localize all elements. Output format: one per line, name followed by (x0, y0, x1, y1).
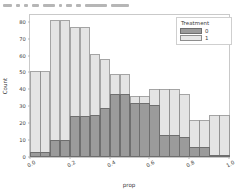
x-axis-label: prop (123, 182, 136, 188)
bar-treatment-0 (120, 94, 131, 157)
bar-treatment-0 (159, 135, 170, 157)
y-axis-tick-label: 50 (19, 69, 26, 75)
bar-treatment-0 (199, 147, 210, 157)
bar-treatment-1 (60, 20, 71, 157)
bar-treatment-0 (70, 116, 81, 157)
bar-treatment-0 (100, 108, 111, 157)
bar-treatment-0 (40, 152, 51, 157)
bar-treatment-0 (169, 135, 180, 157)
y-axis-tick-mark (28, 89, 30, 90)
legend-item-0[interactable]: 0 (180, 28, 228, 34)
x-axis-tick-label: 0.0 (26, 159, 36, 168)
bar-treatment-0 (189, 147, 200, 157)
bar-treatment-0 (149, 105, 160, 157)
x-axis-tick-label: 0.8 (185, 159, 195, 168)
x-axis-tick-mark (149, 157, 150, 159)
y-axis-tick-label: 60 (19, 53, 26, 59)
x-axis-tick-label: 1.0 (225, 159, 235, 168)
bar-treatment-0 (139, 103, 150, 157)
x-axis-tick-mark (189, 157, 190, 159)
x-axis-tick-mark (30, 157, 31, 159)
x-axis-tick-mark (109, 157, 110, 159)
y-axis-tick-label: 30 (19, 103, 26, 109)
bar-treatment-1 (50, 20, 61, 157)
legend: Treatment 0 1 (176, 17, 232, 45)
y-axis-tick-mark (28, 123, 30, 124)
y-axis-tick-mark (28, 140, 30, 141)
x-axis-tick-label: 0.6 (146, 159, 156, 168)
legend-label-0: 0 (205, 28, 208, 34)
x-axis-tick-mark (229, 157, 230, 159)
bar-treatment-0 (110, 94, 121, 157)
y-axis-tick-mark (28, 38, 30, 39)
y-axis-tick-label: 80 (19, 19, 26, 25)
y-axis-tick-label: 20 (19, 120, 26, 126)
legend-swatch-1 (180, 35, 202, 41)
y-axis-tick-mark (28, 106, 30, 107)
bar-treatment-0 (50, 140, 61, 157)
y-axis-tick-mark (28, 55, 30, 56)
x-axis-tick-label: 0.4 (106, 159, 116, 168)
bar-treatment-1 (209, 115, 220, 157)
bar-treatment-0 (60, 140, 71, 157)
bar-treatment-0 (90, 115, 101, 157)
bar-treatment-0 (209, 155, 220, 157)
y-axis-tick-label: 10 (19, 137, 26, 143)
bar-treatment-1 (40, 71, 51, 157)
legend-swatch-0 (180, 28, 202, 34)
y-axis-tick-label: 0 (23, 154, 26, 160)
histogram-plot: Count prop 010203040506070800.00.20.40.6… (0, 7, 239, 196)
y-axis-tick-mark (28, 72, 30, 73)
legend-title: Treatment (180, 20, 228, 26)
y-axis-tick-mark (28, 21, 30, 22)
y-axis-label: Count (2, 78, 8, 95)
x-axis-tick-mark (69, 157, 70, 159)
y-axis-tick-label: 40 (19, 86, 26, 92)
legend-label-1: 1 (205, 35, 208, 41)
x-axis-tick-label: 0.2 (66, 159, 76, 168)
y-axis-tick-label: 70 (19, 36, 26, 42)
legend-item-1[interactable]: 1 (180, 35, 228, 41)
toolbar[interactable] (0, 0, 239, 7)
toolbar-row (0, 0, 239, 7)
bar-treatment-1 (219, 115, 230, 157)
